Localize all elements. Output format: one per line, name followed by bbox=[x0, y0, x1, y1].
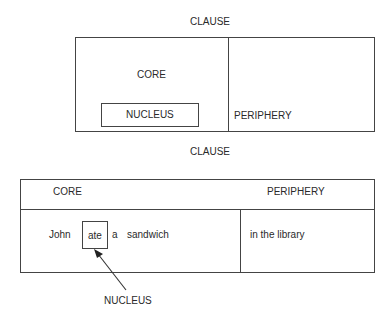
nucleus-callout-label: NUCLEUS bbox=[104, 295, 152, 307]
nucleus-arrow-icon bbox=[0, 0, 390, 314]
